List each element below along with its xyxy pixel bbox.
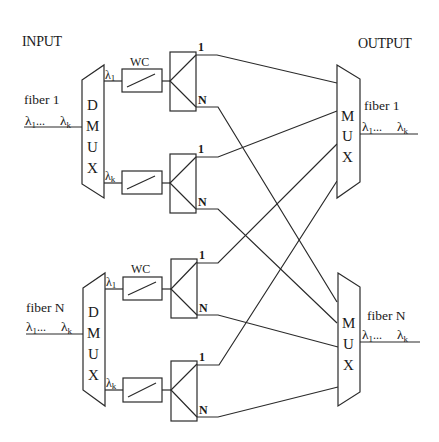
splitter-2-port-1: 1 — [198, 142, 204, 156]
demux-1-channel-k-label: λk — [105, 169, 116, 184]
splitter-4 — [171, 361, 197, 421]
splitter-2-port-n: N — [198, 195, 207, 209]
demux-n-letter-u: U — [88, 346, 99, 362]
demux-n-letter-x: X — [88, 367, 99, 383]
splitter-3 — [171, 259, 197, 318]
demux-n-letter-m: M — [87, 325, 100, 341]
demux-n-channel-1-label: λ1 — [106, 275, 116, 290]
link-s2-n-to-mux-n — [196, 209, 337, 323]
input-fiber-n-label: fiber N — [26, 300, 65, 315]
interconnect-lines — [196, 55, 338, 417]
link-s2-1-to-mux-1 — [196, 111, 337, 157]
wavelength-converter-switch-diagram: INPUT OUTPUT fiber 1 λ1... λk D M U X λ1… — [0, 0, 439, 442]
mux-n-letter-u: U — [343, 336, 354, 352]
link-s3-1-to-mux-1 — [197, 144, 337, 263]
output-fiber-1-group: M U X fiber 1 λ1... λk — [337, 65, 418, 198]
output-fiber-1-label: fiber 1 — [364, 98, 400, 113]
input-fiber-n-group: fiber N λ1... λk D M U X λ1 WC 1 N λk — [26, 248, 208, 421]
demux-1-letter-m: M — [86, 118, 99, 134]
output-title: OUTPUT — [358, 36, 412, 51]
link-s1-n-to-mux-n — [196, 107, 337, 302]
mux-n-letter-x: X — [343, 357, 354, 373]
link-s3-n-to-mux-n — [197, 315, 338, 347]
mux-n-letter-m: M — [342, 315, 355, 331]
input-fiber-1-group: fiber 1 λ1... λk D M U X λ1 WC 1 N λk — [24, 40, 207, 213]
splitter-1-port-1: 1 — [198, 40, 204, 54]
splitter-1 — [170, 52, 196, 111]
mux-1-letter-u: U — [342, 128, 353, 144]
output-fiber-n-group: M U X fiber N λ1... λk — [338, 273, 420, 406]
demux-1-letter-u: U — [87, 139, 98, 155]
link-s4-n-to-mux-n — [197, 387, 338, 417]
splitter-4-port-n: N — [199, 403, 208, 417]
splitter-4-port-1: 1 — [199, 350, 205, 364]
splitter-3-port-n: N — [199, 301, 208, 315]
link-s1-1-to-mux-1 — [196, 55, 337, 83]
demux-1-letter-x: X — [87, 160, 98, 176]
demux-n-channel-k-label: λk — [106, 376, 117, 391]
splitter-2 — [170, 154, 196, 213]
wc-n-label: WC — [131, 262, 150, 276]
mux-1-letter-x: X — [342, 149, 353, 165]
splitter-1-port-n: N — [198, 93, 207, 107]
input-title: INPUT — [22, 34, 62, 49]
demux-1-letter-d: D — [87, 97, 98, 113]
output-fiber-n-label: fiber N — [367, 308, 406, 323]
splitter-3-port-1: 1 — [199, 248, 205, 262]
wc-1-label: WC — [130, 55, 149, 69]
mux-1-letter-m: M — [341, 108, 354, 124]
demux-n-letter-d: D — [88, 304, 99, 320]
input-fiber-1-label: fiber 1 — [24, 92, 60, 107]
